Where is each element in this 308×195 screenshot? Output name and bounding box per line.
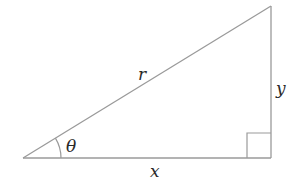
angle-arc-theta xyxy=(55,138,61,158)
right-angle-marker xyxy=(247,133,271,158)
opposite-label: y xyxy=(276,80,286,97)
right-triangle-diagram: r y θ x xyxy=(0,0,308,195)
angle-label: θ xyxy=(66,138,76,155)
hypotenuse-label: r xyxy=(138,66,146,83)
hypotenuse-r xyxy=(23,6,271,158)
adjacent-label: x xyxy=(150,163,160,180)
